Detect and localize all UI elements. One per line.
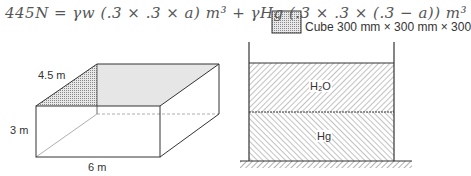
- ground: [240, 161, 412, 168]
- tank-depth-label: 4.5 m: [38, 69, 66, 81]
- mercury-label: Hg: [316, 130, 332, 142]
- water-label: H₂O: [309, 80, 332, 92]
- fluid-container: [249, 42, 394, 161]
- tank-width-label: 6 m: [88, 161, 106, 173]
- cube-label: Cube 300 mm × 300 mm × 300: [305, 20, 471, 34]
- tank-height-label: 3 m: [10, 124, 28, 136]
